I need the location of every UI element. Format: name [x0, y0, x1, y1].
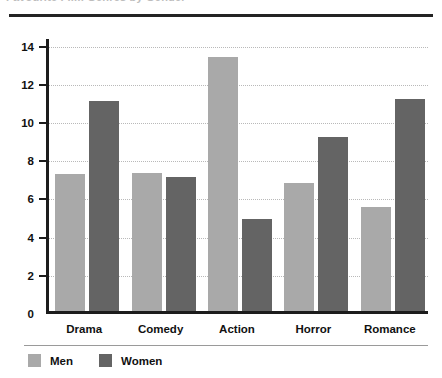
x-axis: DramaComedyActionHorrorRomance	[46, 317, 428, 343]
y-axis-tick-mark	[39, 237, 46, 239]
bar-action-women	[242, 219, 272, 311]
y-axis-tick-label: 6	[28, 193, 34, 205]
y-axis-tick-label: 4	[28, 232, 34, 244]
legend-label-men: Men	[50, 355, 73, 367]
bar-romance-men	[361, 207, 391, 311]
legend-swatch-men	[28, 354, 41, 367]
y-axis-tick-label: 12	[21, 79, 34, 91]
bar-horror-men	[284, 183, 314, 311]
cropped-heading-text: Favourite Film Genres by Gender	[6, 0, 186, 3]
bar-horror-women	[318, 137, 348, 311]
bar-action-men	[208, 57, 238, 311]
legend-item-men[interactable]: Men	[28, 354, 73, 367]
y-axis-tick-mark	[39, 84, 46, 86]
y-axis-tick-mark	[39, 122, 46, 124]
x-axis-label-action: Action	[219, 323, 255, 335]
x-axis-label-comedy: Comedy	[138, 323, 183, 335]
chart-legend: MenWomen	[28, 354, 162, 367]
bar-comedy-women	[166, 177, 196, 311]
y-axis-tick-mark	[39, 275, 46, 277]
plot-area	[46, 39, 428, 314]
bar-drama-men	[55, 174, 85, 312]
legend-swatch-women	[99, 354, 112, 367]
y-axis-tick-label: 8	[28, 155, 34, 167]
legend-label-women: Women	[121, 355, 162, 367]
bar-group-container	[49, 39, 428, 311]
y-axis: 02468101214	[0, 18, 46, 318]
x-axis-label-horror: Horror	[296, 323, 332, 335]
legend-divider	[24, 345, 428, 346]
bar-drama-women	[89, 101, 119, 311]
y-axis-tick-mark	[39, 160, 46, 162]
legend-item-women[interactable]: Women	[99, 354, 162, 367]
x-axis-label-romance: Romance	[364, 323, 416, 335]
header-rule	[9, 14, 433, 17]
y-axis-tick-label: 0	[28, 308, 34, 320]
x-axis-label-drama: Drama	[66, 323, 102, 335]
bar-chart-figure: 02468101214 DramaComedyActionHorrorRoman…	[0, 18, 442, 378]
y-axis-tick-label: 2	[28, 270, 34, 282]
y-axis-tick-label: 10	[21, 117, 34, 129]
bar-comedy-men	[132, 173, 162, 311]
y-axis-tick-mark	[39, 46, 46, 48]
y-axis-tick-mark	[39, 198, 46, 200]
bar-romance-women	[395, 99, 425, 311]
y-axis-tick-label: 14	[21, 41, 34, 53]
